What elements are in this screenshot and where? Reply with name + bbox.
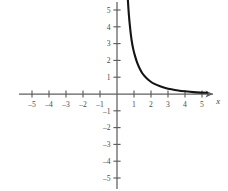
- x-tick-label: 3: [166, 100, 170, 109]
- y-tick-label: –2: [102, 123, 111, 132]
- y-tick-label: 1: [107, 73, 111, 82]
- x-tick-label: –3: [61, 100, 70, 109]
- x-tick-label: 5: [200, 100, 204, 109]
- x-tick-label: 1: [132, 100, 136, 109]
- plot-area: –5–4–3–2–112345 –5–4–3–2–112345 x: [0, 0, 228, 191]
- x-tick-label: –4: [44, 100, 53, 109]
- y-tick-label: 2: [107, 56, 111, 65]
- y-tick-label: 3: [107, 39, 111, 48]
- x-tick-label: –5: [27, 100, 36, 109]
- y-tick-label: 4: [107, 23, 111, 32]
- x-tick-label: 4: [183, 100, 187, 109]
- x-axis-label: x: [215, 97, 220, 106]
- y-tick-label: –1: [102, 107, 111, 116]
- y-tick-label: –5: [102, 174, 111, 183]
- x-tick-label: –2: [78, 100, 87, 109]
- x-axis-tick-labels: –5–4–3–2–112345: [27, 100, 204, 109]
- x-tick-label: 2: [149, 100, 153, 109]
- coordinate-plane-graph: –5–4–3–2–112345 –5–4–3–2–112345 x: [0, 0, 228, 191]
- y-tick-label: 5: [107, 6, 111, 15]
- function-curve: [128, 0, 207, 93]
- y-tick-label: –4: [102, 157, 111, 166]
- y-tick-label: –3: [102, 140, 111, 149]
